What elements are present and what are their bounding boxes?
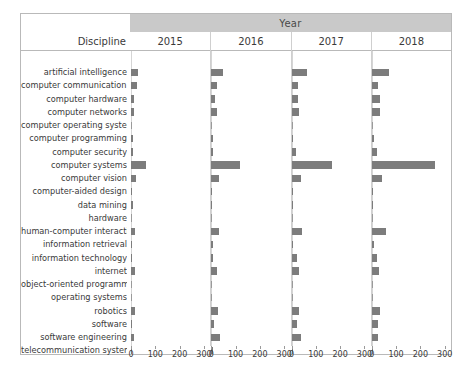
bar <box>131 228 135 236</box>
bar <box>131 175 136 183</box>
bar <box>372 122 373 130</box>
bar <box>131 267 135 275</box>
axis-tick-label: 0 <box>369 350 374 359</box>
bar <box>292 95 298 103</box>
row-label: computer security <box>21 146 127 158</box>
axis-tick <box>284 346 285 349</box>
row-label: operating systems <box>21 291 127 303</box>
bar <box>292 214 293 222</box>
bar <box>131 320 132 328</box>
axis-tick <box>340 346 341 349</box>
axis-tick <box>396 346 397 349</box>
bar <box>211 95 214 103</box>
bar <box>372 320 378 328</box>
bar <box>131 307 135 315</box>
row-label: computer operating systems <box>21 119 127 131</box>
bar <box>372 82 378 90</box>
bar <box>131 241 132 249</box>
axis-tick <box>292 346 293 349</box>
bar <box>131 294 132 302</box>
axis-tick <box>364 346 365 349</box>
axis-tick-label: 100 <box>388 350 403 359</box>
year-group-header: Year <box>130 14 451 32</box>
axis-tick-label: 0 <box>209 350 214 359</box>
axis-tick-label: 200 <box>332 350 347 359</box>
column-header-row: Discipline 2015201620172018 <box>21 32 451 51</box>
bar <box>211 108 216 116</box>
bar <box>211 228 218 236</box>
bar <box>131 214 132 222</box>
bar <box>131 161 146 169</box>
bar <box>131 281 132 289</box>
bar <box>372 267 379 275</box>
axis-tick <box>260 346 261 349</box>
bar <box>292 188 293 196</box>
axis-tick-label: 0 <box>128 350 133 359</box>
bar <box>131 254 132 262</box>
row-label: computer vision <box>21 172 127 184</box>
axis-tick <box>204 346 205 349</box>
bar <box>292 82 298 90</box>
row-label: telecommunication systems <box>21 344 127 356</box>
bar <box>372 228 386 236</box>
bar <box>292 122 293 130</box>
bar <box>131 188 132 196</box>
bar <box>292 241 294 249</box>
bar <box>292 135 294 143</box>
bar <box>211 320 213 328</box>
bar <box>292 320 297 328</box>
bar <box>372 175 383 183</box>
bar <box>372 69 390 77</box>
bar <box>372 188 373 196</box>
axis-tick-label: 100 <box>148 350 163 359</box>
x-axis: 0100200300010020030001002003000100200300 <box>130 346 451 366</box>
bar <box>211 267 216 275</box>
bar <box>211 161 240 169</box>
bar <box>131 135 133 143</box>
axis-tick-label: 100 <box>308 350 323 359</box>
bar <box>211 201 212 209</box>
bar <box>372 214 373 222</box>
axis-tick-label: 200 <box>252 350 267 359</box>
bar <box>131 69 138 77</box>
row-label: information technology <box>21 252 127 264</box>
row-label: information retrieval <box>21 238 127 250</box>
row-label: artificial intelligence <box>21 66 127 78</box>
row-label: internet <box>21 265 127 277</box>
panel-2017 <box>291 51 371 346</box>
axis-tick <box>372 346 373 349</box>
bar <box>372 201 373 209</box>
bar <box>211 188 212 196</box>
bar <box>292 161 332 169</box>
bar <box>211 241 212 249</box>
panel-2016 <box>210 51 290 346</box>
bar <box>292 228 302 236</box>
bar <box>292 108 299 116</box>
bar <box>372 254 377 262</box>
bar <box>292 175 301 183</box>
bar <box>372 307 380 315</box>
bar <box>131 148 133 156</box>
row-label: computer communication net.. <box>21 79 127 91</box>
axis-tick <box>445 346 446 349</box>
bar <box>372 95 380 103</box>
row-label: computer hardware <box>21 93 127 105</box>
bar <box>372 294 373 302</box>
bar <box>372 135 374 143</box>
row-label: computer systems <box>21 159 127 171</box>
row-label: software engineering <box>21 331 127 343</box>
bar <box>372 281 373 289</box>
axis-tick-label: 200 <box>172 350 187 359</box>
bar <box>292 267 300 275</box>
bar <box>211 281 212 289</box>
row-label: software <box>21 318 127 330</box>
bar <box>211 307 218 315</box>
axis-tick-label: 100 <box>228 350 243 359</box>
bar <box>211 69 223 77</box>
year-column-header-2015: 2015 <box>130 32 210 51</box>
bar <box>372 108 380 116</box>
panel-2015 <box>130 51 210 346</box>
bar <box>372 241 374 249</box>
axis-tick-label: 300 <box>437 350 452 359</box>
bar <box>131 122 132 130</box>
